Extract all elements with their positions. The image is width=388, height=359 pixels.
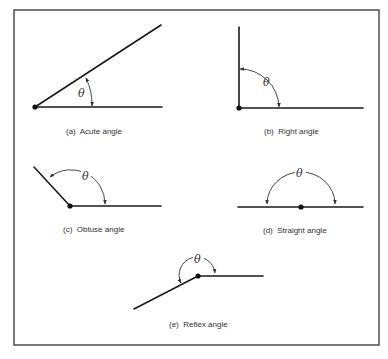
acute-caption: (a) Acute angle: [66, 127, 123, 136]
obtuse-caption: (c) Obtuse angle: [63, 225, 125, 234]
acute-vertex: [32, 104, 37, 109]
acute-angle-arc: [86, 78, 92, 106]
obtuse-theta-label: θ: [82, 170, 89, 183]
obtuse-angle-arc: [50, 170, 105, 204]
right-vertex: [236, 105, 241, 110]
reflex-caption: (e) Reflex angle: [169, 320, 228, 329]
acute-theta-label: θ: [78, 87, 85, 100]
reflex-lower-ray: [134, 276, 198, 309]
panel-reflex-angle: θ (e) Reflex angle: [134, 253, 263, 329]
acute-upper-ray: [35, 25, 161, 107]
panel-right-angle: θ (b) Right angle: [236, 27, 363, 136]
reflex-vertex: [195, 273, 200, 278]
angle-types-figure: θ (a) Acute angle θ (b) Right angle θ (c…: [0, 0, 388, 359]
panel-obtuse-angle: θ (c) Obtuse angle: [34, 167, 161, 234]
straight-theta-label: θ: [296, 167, 303, 180]
panel-straight-angle: θ (d) Straight angle: [238, 166, 363, 235]
panel-acute-angle: θ (a) Acute angle: [32, 25, 162, 136]
reflex-theta-label: θ: [194, 253, 201, 266]
right-theta-label: θ: [263, 76, 270, 89]
right-angle-arc: [240, 69, 279, 107]
straight-caption: (d) Straight angle: [263, 226, 327, 235]
obtuse-vertex: [67, 203, 72, 208]
right-caption: (b) Right angle: [264, 127, 319, 136]
obtuse-upper-ray: [34, 167, 70, 206]
straight-vertex: [298, 204, 303, 209]
figure-frame: [14, 10, 379, 345]
